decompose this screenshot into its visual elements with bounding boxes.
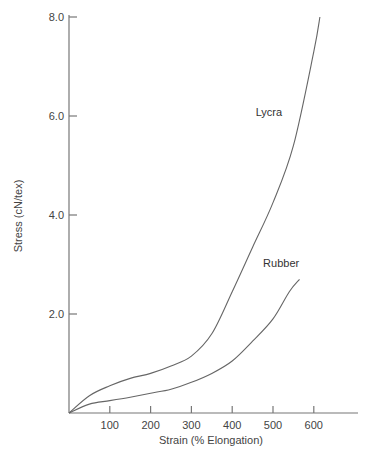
series-label-lycra: Lycra (256, 106, 283, 118)
series-line-rubber (69, 279, 300, 413)
x-tick-label: 200 (141, 419, 159, 431)
x-ticks: 100200300400500600 (101, 406, 323, 431)
x-tick-label: 300 (182, 419, 200, 431)
series-label-rubber: Rubber (263, 257, 299, 269)
x-tick-label: 400 (223, 419, 241, 431)
x-tick-label: 100 (101, 419, 119, 431)
axes (69, 15, 358, 413)
x-tick-label: 600 (305, 419, 323, 431)
y-axis-title: Stress (cN/tex) (12, 180, 24, 253)
x-axis-title: Strain (% Elongation) (159, 434, 263, 446)
series-lines (69, 17, 320, 413)
series-line-lycra (69, 17, 320, 413)
y-ticks: 2.04.06.08.0 (49, 11, 77, 320)
x-tick-label: 500 (264, 419, 282, 431)
y-tick-label: 2.0 (49, 308, 64, 320)
stress-strain-chart: 2.04.06.08.0 100200300400500600 LycraRub… (0, 0, 372, 463)
series-labels: LycraRubber (256, 106, 300, 269)
y-tick-label: 4.0 (49, 209, 64, 221)
y-tick-label: 6.0 (49, 110, 64, 122)
y-tick-label: 8.0 (49, 11, 64, 23)
